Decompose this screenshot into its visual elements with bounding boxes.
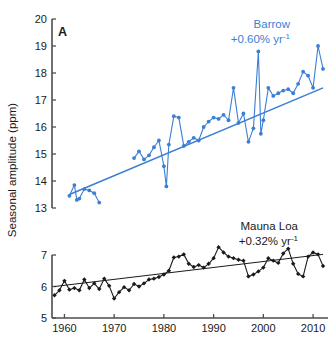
upper-y-tick-label: 17 [35,94,47,106]
data-point [286,87,290,91]
data-point [316,44,320,48]
data-point [137,149,141,153]
data-point [147,153,151,157]
barrow-trend-exponent: -1 [283,32,291,41]
figure-container: Seasonal amplitude (ppm) A 1314151617181… [0,0,336,359]
series-mauna-loa [52,245,325,301]
panel-letter-text: A [58,25,67,39]
data-point [261,118,265,122]
data-point [276,261,280,265]
barrow-label: Barrow [254,18,291,30]
data-point [192,136,196,140]
data-point [152,276,156,280]
x-tick-label: 1960 [52,322,76,334]
trend-line [54,254,323,286]
data-point [296,82,300,86]
data-point [177,254,181,258]
mauna-loa-trend-value: +0.32% yr [239,235,291,247]
data-point [207,120,211,124]
data-point [306,74,310,78]
data-point [167,143,171,147]
data-point [77,197,81,201]
upper-y-tick-label: 20 [35,13,47,25]
data-point [246,274,250,278]
data-point [202,125,206,129]
data-point [271,94,275,98]
data-point [291,262,295,266]
data-point [247,140,251,144]
data-point [172,114,176,118]
data-point [172,255,176,259]
data-point [177,116,181,120]
data-point [311,86,315,90]
data-point [231,256,235,260]
data-point [296,272,300,276]
data-point [67,287,71,291]
data-point [197,263,201,267]
data-point [97,201,101,205]
upper-y-tick-label: 13 [35,202,47,214]
x-tick-label: 1970 [102,322,126,334]
data-point [227,118,231,122]
data-point [87,189,91,193]
data-point [72,183,76,187]
data-point [266,256,270,260]
data-point [236,258,240,262]
data-point [62,279,66,283]
data-point [72,286,76,290]
barrow-trend-value: +0.60% yr [231,33,283,45]
data-point [256,50,260,54]
chart-canvas: Seasonal amplitude (ppm) A 1314151617181… [0,0,336,359]
data-point [212,116,216,120]
data-point [281,89,285,93]
x-tick-label: 1990 [201,322,225,334]
series-barrow [68,44,325,204]
data-point [157,275,161,279]
data-point [182,252,186,256]
data-point [77,288,81,292]
lower-y-tick-label: 7 [41,249,47,261]
lower-y-tick-label: 6 [41,281,47,293]
data-point [164,185,168,189]
data-point [259,132,263,136]
data-point [252,126,256,130]
data-point [276,91,280,95]
data-point [162,164,166,168]
upper-y-tick-label: 16 [35,121,47,133]
data-point [266,86,270,90]
x-axis: 196019701980199020002010 [52,314,328,334]
data-point [82,277,86,281]
data-point [321,264,325,268]
data-point [222,113,226,117]
mauna-loa-label: Mauna Loa [240,220,298,232]
data-point [92,191,96,195]
data-point [241,258,245,262]
data-point [301,274,305,278]
data-point [152,145,156,149]
upper-y-tick-label: 18 [35,67,47,79]
data-point [132,156,136,160]
data-point [291,91,295,95]
x-tick-label: 1980 [152,322,176,334]
y-axis-title-text: Seasonal amplitude (ppm) [6,103,18,237]
data-point [142,158,146,162]
barrow-trend-label: +0.60% yr-1 [231,32,291,45]
mauna-loa-trend-label: +0.32% yr-1 [239,234,299,247]
lower-y-tick-label: 5 [41,312,47,324]
mauna-loa-trend-exponent: -1 [291,234,299,243]
y-axis-title: Seasonal amplitude (ppm) [6,103,18,237]
x-tick-label: 2000 [251,322,275,334]
data-point [242,112,246,116]
upper-y-tick-label: 19 [35,40,47,52]
panel-letter: A [58,25,67,39]
data-point [157,139,161,143]
data-point [232,86,236,90]
lower-panel-mauna-loa: 567 [41,245,325,324]
series-annotations: Barrow +0.60% yr-1 Mauna Loa +0.32% yr-1 [231,18,299,247]
trend-line [69,88,323,195]
data-point [321,67,325,71]
data-point [301,70,305,74]
upper-y-tick-label: 14 [35,175,47,187]
data-point [217,117,221,121]
x-tick-label: 2010 [301,322,325,334]
